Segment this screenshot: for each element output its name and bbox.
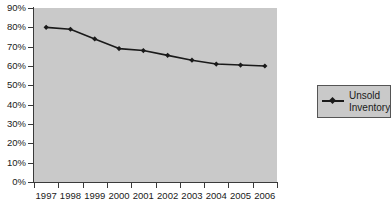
x-axis-label: 2006 [245, 190, 285, 201]
legend-label: Unsold Inventory [349, 90, 390, 114]
x-axis-tick [107, 183, 108, 188]
legend[interactable]: Unsold Inventory [317, 85, 391, 118]
y-axis-label: 0% [0, 177, 26, 187]
y-axis-label: 30% [0, 119, 26, 129]
x-axis-tick [156, 183, 157, 188]
legend-label-line2: Inventory [349, 102, 390, 113]
y-axis-line [33, 7, 34, 183]
y-axis-label: 90% [0, 3, 26, 13]
x-axis-tick [83, 183, 84, 188]
y-axis-label: 20% [0, 138, 26, 148]
y-axis-tick [28, 85, 33, 86]
x-axis-tick [277, 183, 278, 188]
y-axis-tick [28, 143, 33, 144]
legend-entry-unsold-inventory[interactable]: Unsold Inventory [318, 86, 390, 117]
y-axis-label: 10% [0, 158, 26, 168]
y-axis-tick [28, 27, 33, 28]
y-axis-label: 40% [0, 100, 26, 110]
plot-area [34, 8, 277, 182]
x-axis-tick [34, 183, 35, 188]
y-axis-tick [28, 47, 33, 48]
y-axis-tick [28, 124, 33, 125]
y-axis-label: 80% [0, 22, 26, 32]
x-axis-tick [180, 183, 181, 188]
x-axis-tick [204, 183, 205, 188]
x-axis-tick [131, 183, 132, 188]
y-axis-tick [28, 182, 33, 183]
x-axis-tick [58, 183, 59, 188]
y-axis-label: 70% [0, 42, 26, 52]
legend-label-line1: Unsold [349, 90, 380, 101]
y-axis-tick [28, 66, 33, 67]
x-axis-tick [253, 183, 254, 188]
diamond-marker-icon [329, 96, 336, 103]
y-axis-tick [28, 105, 33, 106]
y-axis-tick [28, 163, 33, 164]
x-axis-tick [228, 183, 229, 188]
y-axis-label: 60% [0, 61, 26, 71]
y-axis-label: 50% [0, 80, 26, 90]
y-axis-tick [28, 8, 33, 9]
